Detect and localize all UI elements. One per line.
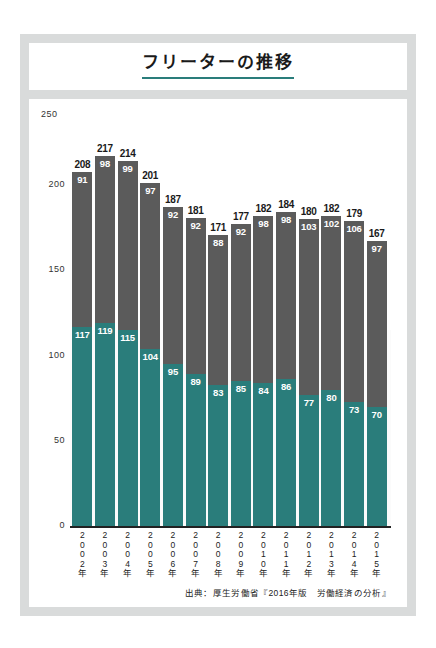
x-axis-label: 2009年: [231, 531, 251, 579]
bar-value-younger: 73: [344, 404, 364, 415]
bar-segment-younger: 86: [276, 379, 296, 526]
bar-total-label: 179: [341, 208, 367, 219]
bar-value-younger: 84: [253, 385, 273, 396]
source-note: 出典：厚生労働省『2016年版 労働経済の分析』: [185, 586, 391, 598]
bar-column: 9770: [367, 241, 387, 526]
bar-value-older: 103: [299, 221, 319, 232]
bar-value-older: 91: [72, 174, 92, 185]
bar-segment-older: 92: [186, 218, 206, 375]
bar-total-label: 167: [364, 228, 390, 239]
bar-column: 91117: [72, 172, 92, 526]
y-axis-tick-150: 150: [31, 264, 65, 274]
bar-segment-older: 88: [208, 235, 228, 385]
bar-segment-older: 102: [321, 216, 341, 390]
bar-total-label: 201: [137, 170, 163, 181]
bar-value-younger: 83: [208, 387, 228, 398]
bar-column: 9285: [231, 224, 251, 526]
bar-value-older: 98: [95, 158, 115, 169]
bar-column: 10673: [344, 221, 364, 526]
bar-segment-younger: 83: [208, 385, 228, 526]
y-axis-tick-50: 50: [31, 435, 65, 445]
bar-value-younger: 89: [186, 376, 206, 387]
bar-segment-older: 103: [299, 219, 319, 395]
bar-column: 9295: [163, 207, 183, 526]
y-axis-tick-200: 200: [31, 179, 65, 189]
bar-total-label: 214: [115, 148, 141, 159]
bar-value-older: 92: [163, 209, 183, 220]
bar-value-older: 88: [208, 237, 228, 248]
bar-value-older: 99: [118, 163, 138, 174]
bar-column: 97104: [140, 183, 160, 526]
bar-value-older: 98: [253, 218, 273, 229]
bar-total-label: 208: [69, 159, 95, 170]
bar-segment-older: 97: [367, 241, 387, 406]
bar-segment-younger: 115: [118, 330, 138, 526]
bar-column: 10377: [299, 219, 319, 526]
bar-segment-younger: 80: [321, 390, 341, 526]
bar-column: 9289: [186, 218, 206, 526]
bar-column: 10280: [321, 216, 341, 526]
bar-column: 99115: [118, 161, 138, 526]
y-axis-tick-100: 100: [31, 350, 65, 360]
bar-segment-younger: 95: [163, 364, 183, 526]
bar-value-older: 102: [321, 218, 341, 229]
bar-segment-older: 92: [163, 207, 183, 364]
bar-segment-older: 98: [95, 156, 115, 323]
y-axis-tick-0: 0: [31, 520, 65, 530]
bar-value-older: 106: [344, 223, 364, 234]
bar-value-younger: 85: [231, 383, 251, 394]
bar-segment-younger: 85: [231, 381, 251, 526]
x-axis-label: 2015年: [367, 531, 387, 579]
x-axis-label: 2014年: [344, 531, 364, 579]
bar-segment-older: 97: [140, 183, 160, 348]
bar-segment-older: 98: [276, 212, 296, 379]
x-axis-label: 2010年: [253, 531, 273, 579]
bar-total-label: 181: [183, 205, 209, 216]
bar-value-younger: 77: [299, 397, 319, 408]
bar-value-younger: 119: [95, 325, 115, 336]
bar-segment-older: 92: [231, 224, 251, 381]
bar-value-older: 97: [140, 185, 160, 196]
bar-column: 9886: [276, 212, 296, 526]
bar-column: 9884: [253, 216, 273, 526]
bar-segment-younger: 117: [72, 327, 92, 526]
bar-value-younger: 115: [118, 332, 138, 343]
bar-value-older: 92: [186, 220, 206, 231]
bar-segment-younger: 104: [140, 349, 160, 526]
bar-value-older: 97: [367, 243, 387, 254]
bar-segment-younger: 84: [253, 383, 273, 526]
x-axis-label: 2006年: [163, 531, 183, 579]
x-axis-label: 2002年: [72, 531, 92, 579]
x-axis-label: 2013年: [321, 531, 341, 579]
x-axis-label: 2008年: [208, 531, 228, 579]
bar-value-younger: 86: [276, 381, 296, 392]
x-axis-line: [70, 526, 391, 528]
bar-value-younger: 95: [163, 366, 183, 377]
bar-value-younger: 117: [72, 329, 92, 340]
bar-value-younger: 80: [321, 392, 341, 403]
bar-total-label: 171: [205, 222, 231, 233]
x-axis-label: 2003年: [95, 531, 115, 579]
plot-area: 050100150200 911172089811921799115214971…: [29, 99, 407, 607]
x-axis-label: 2005年: [140, 531, 160, 579]
bar-value-younger: 104: [140, 351, 160, 362]
bar-column: 8883: [208, 235, 228, 526]
bar-segment-older: 99: [118, 161, 138, 330]
x-axis-label: 2007年: [186, 531, 206, 579]
bar-column: 98119: [95, 156, 115, 526]
x-axis-label: 2011年: [276, 531, 296, 579]
bar-segment-younger: 70: [367, 407, 387, 526]
bar-segment-younger: 119: [95, 323, 115, 526]
title-panel: フリーターの推移: [29, 43, 407, 90]
chart-panel: 250（万人） 15〜24歳 25〜34歳 050100150200 91117…: [29, 99, 407, 607]
bar-segment-older: 91: [72, 172, 92, 327]
x-axis-label: 2012年: [299, 531, 319, 579]
bar-segment-younger: 73: [344, 402, 364, 526]
bar-value-younger: 70: [367, 409, 387, 420]
bar-value-older: 92: [231, 226, 251, 237]
x-axis-label: 2004年: [118, 531, 138, 579]
bar-value-older: 98: [276, 214, 296, 225]
bar-segment-younger: 77: [299, 395, 319, 526]
page-title: フリーターの推移: [142, 54, 294, 80]
bar-segment-older: 106: [344, 221, 364, 402]
